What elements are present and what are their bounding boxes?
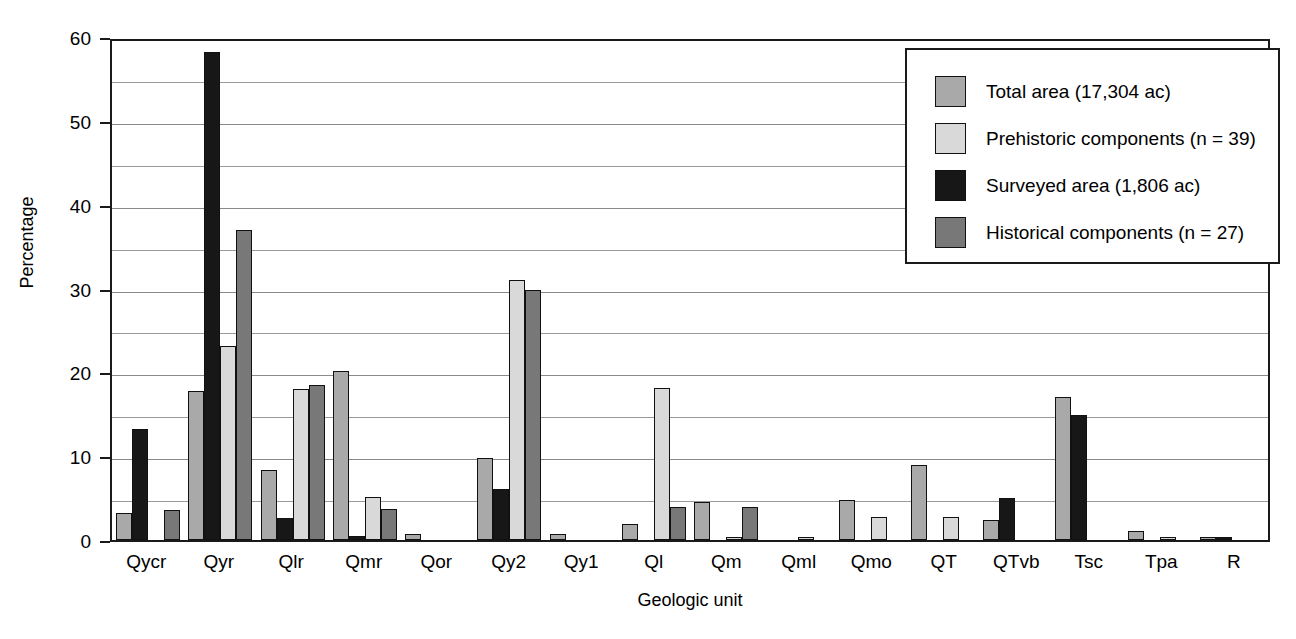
bar-slot [694,41,710,540]
y-tick-label: 40 [31,197,91,216]
bar-slot [116,41,132,540]
y-tick-mark [100,541,110,543]
bar [726,537,742,540]
bar-slot [333,41,349,540]
bar-slot [277,41,293,540]
bar-group [473,41,545,540]
bar-slot [766,41,782,540]
bar-slot [261,41,277,540]
bar-slot [132,41,148,540]
bar-slot [293,41,309,540]
bar [839,500,855,540]
x-tick-label: Qmo [835,551,908,577]
bar [694,502,710,540]
x-tick-label: Tsc [1053,551,1126,577]
bar-slot [381,41,397,540]
bar [164,510,180,540]
bar-slot [309,41,325,540]
bar-slot [437,41,453,540]
bar-slot [871,41,887,540]
bar-slot [566,41,582,540]
legend-label: Prehistoric components (n = 39) [986,128,1256,150]
bar-slot [349,41,365,540]
bar-slot [622,41,638,540]
legend-swatch [935,76,966,107]
legend-label: Historical components (n = 27) [986,222,1244,244]
bar-slot [742,41,758,540]
bar-slot [493,41,509,540]
bar-slot [188,41,204,540]
bar [742,507,758,540]
bar [261,470,277,540]
y-tick-label: 10 [31,448,91,467]
bar [654,388,670,540]
bar-group [112,41,184,540]
x-tick-label: Ql [618,551,691,577]
y-tick-label: 30 [31,281,91,300]
y-tick-mark [100,206,110,208]
bar-slot [638,41,654,540]
bar-slot [726,41,742,540]
x-tick-label: R [1198,551,1271,577]
legend-swatch [935,123,966,154]
bar-group [618,41,690,540]
bar [550,534,566,540]
bar [1071,415,1087,540]
x-tick-label: QTvb [980,551,1053,577]
x-tick-label: Qlr [255,551,328,577]
bar [1216,537,1232,540]
legend-item: Total area (17,304 ac) [935,68,1278,115]
bar-slot [509,41,525,540]
bar [798,537,814,540]
x-tick-label: Qy1 [545,551,618,577]
bar-group [257,41,329,540]
bar [477,458,493,540]
bar [911,465,927,540]
bar-slot [654,41,670,540]
bar [871,517,887,540]
bar [1128,531,1144,540]
bar [236,230,252,540]
y-tick-mark [100,457,110,459]
y-tick-mark [100,373,110,375]
y-tick-label: 50 [31,113,91,132]
bar-group [329,41,401,540]
legend: Total area (17,304 ac)Prehistoric compon… [905,48,1280,264]
bar [1160,537,1176,540]
bar-slot [453,41,469,540]
bar-slot [582,41,598,540]
bar-slot [798,41,814,540]
bar-slot [148,41,164,540]
bar [220,346,236,540]
x-tick-label: Qmr [328,551,401,577]
bar-slot [550,41,566,540]
bar-group [762,41,834,540]
bar [1055,397,1071,540]
x-tick-label: QT [908,551,981,577]
bar-slot [887,41,903,540]
y-tick-label: 20 [31,364,91,383]
bar-group [546,41,618,540]
bar-slot [421,41,437,540]
x-tick-label: Tpa [1125,551,1198,577]
bar [204,52,220,540]
bar [1200,537,1216,540]
bar [277,518,293,540]
bar-slot [855,41,871,540]
bar-slot [204,41,220,540]
bar [188,391,204,540]
x-tick-label: Qy2 [473,551,546,577]
legend-item: Prehistoric components (n = 39) [935,115,1278,162]
bar-slot [236,41,252,540]
bar [116,513,132,540]
x-tick-label: Qml [763,551,836,577]
legend-item: Surveyed area (1,806 ac) [935,162,1278,209]
legend-item: Historical components (n = 27) [935,209,1278,256]
legend-label: Surveyed area (1,806 ac) [986,175,1200,197]
bar [333,371,349,540]
bar-slot [164,41,180,540]
bar-group [401,41,473,540]
y-axis-title: Percentage [17,143,38,343]
x-tick-label: Qyr [183,551,256,577]
bar [999,498,1015,540]
